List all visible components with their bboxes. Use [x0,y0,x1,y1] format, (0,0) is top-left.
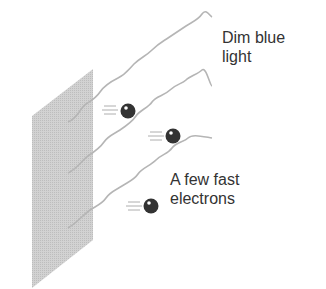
electrons-label: A few fast electrons [170,170,239,208]
electron-2 [148,129,181,144]
photoelectric-diagram: Dim blue light A few fast electrons [0,0,326,289]
electrons-label-line-1: A few fast [170,170,239,189]
electrons-label-line-2: electrons [170,189,239,208]
electron-3 [126,199,159,214]
electron-1 [102,104,136,119]
metal-plate [32,69,93,288]
light-label-line-2: light [222,47,285,66]
light-label: Dim blue light [222,28,285,66]
light-label-line-1: Dim blue [222,28,285,47]
